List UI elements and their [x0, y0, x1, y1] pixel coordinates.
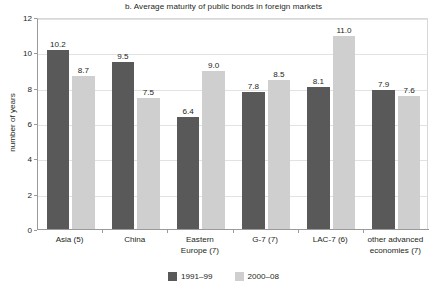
y-axis-tick-label: 4	[0, 155, 32, 164]
bar	[398, 96, 421, 230]
x-axis-category-label: other advancedeconomies (7)	[351, 235, 440, 256]
chart-title: b. Average maturity of public bonds in f…	[0, 2, 447, 11]
bar	[202, 71, 225, 230]
bar	[242, 92, 265, 230]
bar-value-label: 11.0	[336, 26, 351, 35]
gridline	[38, 160, 427, 161]
plot-area: 10.28.79.57.56.49.07.88.58.111.07.97.6	[37, 18, 428, 230]
chart-legend: 1991–992000–08	[0, 272, 447, 281]
bar-value-label: 8.7	[78, 66, 89, 75]
y-axis-tick-mark	[34, 124, 37, 125]
y-axis-tick-label: 8	[0, 84, 32, 93]
bar	[333, 36, 356, 230]
bar	[72, 76, 95, 230]
bar-value-label: 8.1	[313, 77, 324, 86]
legend-label: 1991–99	[181, 272, 213, 281]
bar	[268, 80, 291, 230]
bar	[372, 90, 395, 230]
bar-value-label: 9.0	[208, 61, 219, 70]
bar-value-label: 10.2	[50, 40, 66, 49]
legend-swatch	[235, 272, 244, 281]
chart-figure: b. Average maturity of public bonds in f…	[0, 0, 447, 293]
legend-item: 1991–99	[168, 272, 213, 281]
legend-swatch	[168, 272, 177, 281]
bar-value-label: 9.5	[117, 52, 128, 61]
y-axis-tick-mark	[34, 53, 37, 54]
bar	[112, 62, 135, 230]
x-axis-tick	[298, 229, 299, 233]
y-axis-tick-mark	[34, 159, 37, 160]
gridline	[38, 90, 427, 91]
y-axis-tick-mark	[34, 230, 37, 231]
bar	[177, 117, 200, 230]
gridline	[38, 125, 427, 126]
y-axis-tick-mark	[34, 89, 37, 90]
bar-value-label: 7.6	[404, 86, 415, 95]
bar	[137, 98, 160, 231]
y-axis-tick-label: 0	[0, 226, 32, 235]
x-axis-tick	[233, 229, 234, 233]
x-axis-tick	[363, 229, 364, 233]
legend-label: 2000–08	[248, 272, 280, 281]
y-axis-tick-label: 2	[0, 190, 32, 199]
bar	[307, 87, 330, 230]
bar	[47, 50, 70, 230]
legend-item: 2000–08	[235, 272, 280, 281]
bar-value-label: 7.5	[143, 88, 154, 97]
bar-value-label: 8.5	[273, 70, 284, 79]
gridline	[38, 196, 427, 197]
y-axis-tick-mark	[34, 195, 37, 196]
y-axis-tick-label: 10	[0, 49, 32, 58]
bar-value-label: 7.8	[248, 82, 259, 91]
y-axis-tick-label: 6	[0, 120, 32, 129]
gridline	[38, 19, 427, 20]
x-axis-tick	[102, 229, 103, 233]
y-axis-tick-label: 12	[0, 14, 32, 23]
y-axis-tick-mark	[34, 18, 37, 19]
x-axis-tick	[167, 229, 168, 233]
bar-value-label: 7.9	[378, 80, 389, 89]
bar-value-label: 6.4	[183, 107, 194, 116]
gridline	[38, 54, 427, 55]
